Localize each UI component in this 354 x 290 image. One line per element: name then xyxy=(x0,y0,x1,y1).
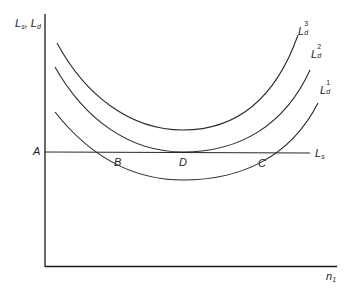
curve-label-ld3: L3d xyxy=(298,25,310,37)
supply-line-label: Ls xyxy=(315,148,325,160)
curve-label-ld2: L2d xyxy=(311,48,323,60)
curve-label-ld1: L1d xyxy=(320,84,332,96)
demand-curve-ld1 xyxy=(55,103,318,180)
y-axis-label: Ls, Ld xyxy=(15,18,41,30)
demand-curve-ld2 xyxy=(55,67,310,152)
point-label-c: C xyxy=(258,158,266,169)
point-label-d: D xyxy=(179,157,187,168)
point-label-b: B xyxy=(114,157,121,168)
x-axis-label: n1 xyxy=(326,271,336,283)
point-label-a: A xyxy=(33,146,40,157)
diagram-canvas xyxy=(0,0,354,290)
